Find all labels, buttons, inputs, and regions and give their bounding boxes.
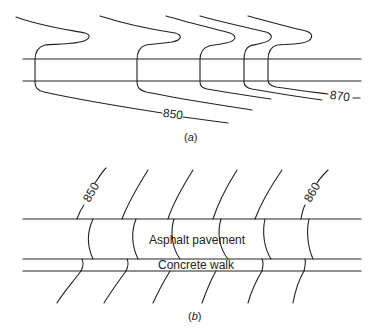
figure-b: 850 860 Asphalt pavement Concrete walk (…: [23, 168, 361, 322]
contour-a-2: [100, 16, 252, 110]
region-label-asphalt-pavement: Asphalt pavement: [149, 233, 246, 247]
figure-a: 850 870 (a): [16, 16, 361, 143]
contour-diagram: 850 870 (a): [0, 0, 376, 336]
contour-label-870-a: 870: [329, 88, 351, 104]
contour-b-2: [104, 170, 148, 303]
contour-a-4: [200, 16, 322, 100]
caption-a: (a): [184, 131, 197, 143]
contour-b-5: [248, 170, 282, 303]
contour-label-860-b: 860: [301, 180, 323, 205]
region-label-concrete-walk: Concrete walk: [158, 258, 235, 272]
contour-a-1: [16, 17, 162, 113]
contour-label-850-b: 850: [80, 180, 102, 205]
contour-a-5: [248, 16, 328, 94]
contour-label-850-a: 850: [162, 106, 184, 122]
contour-a-1-tail: [183, 117, 228, 123]
contour-a-3: [166, 16, 271, 99]
caption-b: (b): [188, 310, 201, 322]
